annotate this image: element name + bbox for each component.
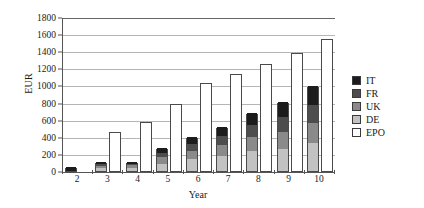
bar-epo[interactable]	[140, 122, 152, 172]
stacked-bar[interactable]	[126, 163, 138, 172]
legend-swatch-de	[352, 115, 361, 124]
legend-label: UK	[366, 102, 380, 112]
stacked-bar[interactable]	[277, 103, 289, 172]
bar-group	[214, 18, 244, 172]
y-axis-tick-labels: 020040060080010001200140016001800	[22, 18, 60, 172]
legend-swatch-epo	[352, 128, 361, 137]
bar-segment-it	[187, 137, 197, 144]
y-tick-label: 400	[42, 133, 56, 143]
stacked-bar[interactable]	[156, 149, 168, 172]
legend-swatch-fr	[352, 89, 361, 98]
bar-segment-fr	[308, 105, 318, 123]
x-tick-mark	[183, 170, 184, 174]
bar-segment-it	[308, 86, 318, 105]
x-tick-mark	[92, 170, 93, 174]
x-tick-mark	[122, 170, 123, 174]
bar-epo[interactable]	[291, 53, 303, 172]
x-tick-label: 2	[75, 174, 80, 184]
bar-segment-de	[127, 168, 137, 171]
legend-item-epo[interactable]: EPO	[352, 126, 418, 139]
x-tick-label: 7	[226, 174, 231, 184]
bar-series-container	[63, 18, 335, 172]
y-tick-label: 600	[42, 116, 56, 126]
y-tick-label: 1000	[37, 81, 56, 91]
x-tick-label: 5	[165, 174, 170, 184]
y-tick-label: 1400	[37, 47, 56, 57]
y-tick-label: 1200	[37, 64, 56, 74]
bar-chart-figure: EUR 020040060080010001200140016001800 23…	[0, 0, 424, 208]
bar-epo[interactable]	[109, 132, 121, 172]
bar-segment-de	[247, 151, 257, 171]
y-tick-label: 1800	[37, 13, 56, 23]
y-tick-label: 1600	[37, 30, 56, 40]
legend-label: EPO	[366, 128, 385, 138]
bar-segment-uk	[247, 137, 257, 151]
bar-group	[63, 18, 93, 172]
stacked-bar[interactable]	[95, 163, 107, 172]
bar-epo[interactable]	[260, 64, 272, 172]
stacked-bar[interactable]	[216, 128, 228, 172]
x-tick-mark	[334, 170, 335, 174]
legend-label: FR	[366, 89, 378, 99]
bar-segment-it	[217, 127, 227, 136]
x-tick-label: 4	[135, 174, 140, 184]
bar-group	[93, 18, 123, 172]
y-tick-label: 200	[42, 150, 56, 160]
legend-swatch-it	[352, 76, 361, 85]
legend-item-it[interactable]: IT	[352, 74, 418, 87]
x-tick-label: 9	[286, 174, 291, 184]
bar-segment-de	[96, 168, 106, 171]
stacked-bar[interactable]	[307, 87, 319, 172]
legend-item-de[interactable]: DE	[352, 113, 418, 126]
bar-segment-it	[247, 113, 257, 125]
bar-epo[interactable]	[170, 104, 182, 172]
bar-epo[interactable]	[230, 74, 242, 172]
bar-segment-fr	[278, 117, 288, 132]
x-tick-label: 6	[196, 174, 201, 184]
x-tick-mark	[213, 170, 214, 174]
x-tick-mark	[274, 170, 275, 174]
bar-segment-uk	[217, 145, 227, 156]
bar-group	[123, 18, 153, 172]
legend-label: DE	[366, 115, 379, 125]
stacked-bar[interactable]	[186, 138, 198, 172]
stacked-bar[interactable]	[65, 168, 77, 172]
x-tick-label: 8	[256, 174, 261, 184]
legend-item-fr[interactable]: FR	[352, 87, 418, 100]
bar-segment-uk	[308, 123, 318, 143]
bar-epo[interactable]	[200, 83, 212, 172]
x-tick-label: 10	[314, 174, 324, 184]
y-tick-label: 0	[51, 167, 56, 177]
x-tick-label: 3	[105, 174, 110, 184]
y-tick-label: 800	[42, 99, 56, 109]
bar-segment-fr	[187, 144, 197, 151]
bar-segment-it	[278, 102, 288, 117]
bar-group	[184, 18, 214, 172]
x-axis-tick-labels: 2345678910	[62, 174, 334, 188]
bar-segment-de	[217, 156, 227, 171]
chart-legend: ITFRUKDEEPO	[352, 74, 418, 139]
x-tick-mark	[304, 170, 305, 174]
bar-segment-fr	[247, 125, 257, 137]
bar-segment-fr	[217, 136, 227, 145]
bar-segment-uk	[278, 132, 288, 149]
bar-group	[275, 18, 305, 172]
x-tick-mark	[153, 170, 154, 174]
plot-area	[62, 18, 335, 173]
bar-group	[244, 18, 274, 172]
bar-segment-de	[187, 159, 197, 171]
x-axis-title: Year	[62, 189, 334, 200]
bar-segment-de	[308, 143, 318, 171]
bar-segment-de	[157, 164, 167, 171]
x-tick-mark	[62, 170, 63, 174]
legend-swatch-uk	[352, 102, 361, 111]
stacked-bar[interactable]	[246, 114, 258, 172]
bar-group	[154, 18, 184, 172]
legend-label: IT	[366, 76, 375, 86]
x-tick-mark	[243, 170, 244, 174]
bar-group	[305, 18, 335, 172]
bar-segment-it	[66, 167, 76, 171]
bar-epo[interactable]	[321, 39, 333, 172]
bar-segment-de	[278, 149, 288, 171]
legend-item-uk[interactable]: UK	[352, 100, 418, 113]
